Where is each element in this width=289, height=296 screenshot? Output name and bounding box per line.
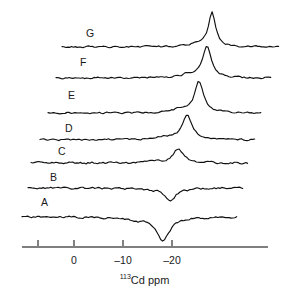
trace-label-a: A — [41, 197, 48, 208]
axis-title-text: Cd ppm — [131, 274, 170, 286]
spectrum-trace-f — [56, 47, 271, 79]
x-axis-tick-label-0: 0 — [71, 255, 77, 266]
spectrum-trace-b — [28, 187, 243, 201]
nmr-spectra-figure: ABCDEFG 0–10–20 113Cd ppm — [0, 0, 289, 296]
trace-label-c: C — [58, 146, 66, 157]
x-axis-tick-label-neg20: –20 — [163, 255, 181, 266]
x-axis-title: 113Cd ppm — [0, 274, 289, 286]
x-axis-tick-label-neg10: –10 — [114, 255, 132, 266]
trace-label-e: E — [68, 90, 75, 101]
trace-label-b: B — [50, 172, 57, 183]
x-axis-ticks — [38, 240, 172, 246]
spectra-traces-group — [22, 12, 279, 241]
spectrum-trace-g — [62, 12, 279, 48]
trace-label-g: G — [86, 28, 94, 39]
x-axis-group — [22, 240, 268, 247]
spectrum-trace-e — [48, 81, 261, 113]
spectrum-trace-a — [22, 216, 237, 241]
trace-label-d: D — [65, 123, 73, 134]
trace-label-f: F — [80, 57, 87, 68]
spectra-plot-canvas — [0, 0, 289, 296]
isotope-superscript: 113 — [120, 273, 131, 280]
